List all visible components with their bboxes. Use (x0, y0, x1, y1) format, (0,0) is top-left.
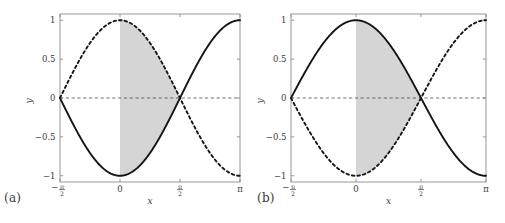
panel-b-tag: (b) (257, 192, 275, 204)
svg-text:2: 2 (419, 190, 423, 197)
panel-a-plot: −π20π2π10.50−0.5−1xy (0, 0, 252, 223)
svg-text:π: π (291, 183, 295, 190)
svg-text:y: y (255, 98, 265, 105)
svg-text:1: 1 (50, 15, 55, 25)
svg-text:0: 0 (50, 93, 55, 103)
svg-text:−: − (282, 182, 289, 192)
svg-text:0: 0 (353, 184, 358, 194)
svg-text:y: y (24, 98, 34, 105)
svg-text:0.5: 0.5 (273, 54, 287, 64)
svg-text:π: π (178, 183, 182, 190)
svg-text:1: 1 (281, 15, 286, 25)
svg-text:0: 0 (117, 184, 122, 194)
svg-text:−0.5: −0.5 (266, 132, 287, 142)
svg-text:−0.5: −0.5 (35, 132, 56, 142)
svg-text:π: π (60, 183, 64, 190)
svg-text:π: π (483, 184, 489, 194)
svg-text:−: − (51, 182, 58, 192)
panel-b-plot: −π20π2π10.50−0.5−1xy (253, 0, 505, 223)
svg-text:2: 2 (291, 190, 295, 197)
svg-text:−1: −1 (43, 171, 56, 181)
panel-b: −π20π2π10.50−0.5−1xy (b) (253, 0, 505, 223)
panel-a-tag: (a) (4, 192, 21, 204)
panel-a: −π20π2π10.50−0.5−1xy (a) (0, 0, 252, 223)
svg-text:x: x (386, 196, 391, 206)
figure-two-panel-plot: −π20π2π10.50−0.5−1xy (a) −π20π2π10.50−0.… (0, 0, 505, 223)
svg-text:2: 2 (60, 190, 64, 197)
svg-text:0.5: 0.5 (42, 54, 56, 64)
svg-text:0: 0 (281, 93, 286, 103)
svg-text:x: x (147, 196, 152, 206)
svg-text:−1: −1 (274, 171, 287, 181)
svg-text:π: π (237, 184, 243, 194)
svg-text:π: π (419, 183, 423, 190)
svg-text:2: 2 (178, 190, 182, 197)
